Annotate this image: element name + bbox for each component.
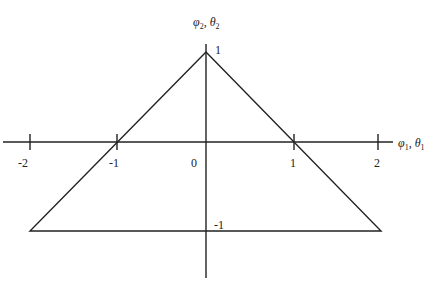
x-label-theta-sub: 1 — [421, 143, 425, 152]
y-label-phi: φ — [193, 15, 200, 29]
x-tick-label-0: 0 — [191, 157, 197, 169]
x-label-phi: φ — [398, 136, 405, 150]
y-label-theta-sub: 2 — [216, 22, 220, 31]
x-axis-label: φ1, θ1 — [398, 137, 425, 152]
y-tick-label--1: -1 — [214, 219, 224, 231]
x-tick-label-1: 1 — [290, 157, 296, 169]
x-tick-label-2: 2 — [374, 157, 380, 169]
x-tick-label--1: -1 — [109, 157, 119, 169]
y-axis-label: φ2, θ2 — [193, 16, 220, 31]
x-tick-label--2: -2 — [18, 157, 28, 169]
y-tick-label-1: 1 — [215, 44, 221, 56]
